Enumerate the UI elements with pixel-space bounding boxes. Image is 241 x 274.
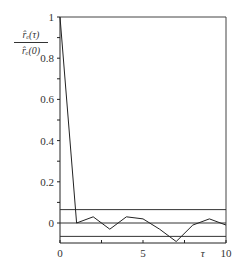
y-tick-label: 0.8: [40, 52, 54, 64]
axis-ticks: [57, 17, 226, 243]
x-tick-label: 5: [140, 247, 146, 259]
y-tick-label: 0.2: [40, 176, 54, 188]
confidence-bands: [60, 210, 226, 237]
x-tick-label: 10: [221, 247, 233, 259]
y-tick-label: 0.4: [40, 135, 54, 147]
series-line: [60, 17, 226, 242]
y-tick-label: 0: [49, 217, 55, 229]
plot-frame: [60, 17, 226, 243]
x-axis-label: τ: [201, 247, 206, 259]
autocorrelation-chart: 00.20.40.60.810510 τ: [0, 0, 241, 274]
y-tick-label: 1: [49, 11, 55, 23]
y-tick-label: 0.6: [40, 93, 54, 105]
x-tick-label: 0: [57, 247, 63, 259]
